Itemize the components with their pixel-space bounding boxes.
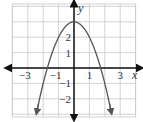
curve-arrow-right xyxy=(109,103,111,112)
x-tick-label: −3 xyxy=(19,69,31,81)
parabola-graph: −3−11321−1−2xy xyxy=(0,0,143,122)
curve-arrow-left xyxy=(37,103,39,112)
y-tick-label: −1 xyxy=(59,77,71,89)
x-tick-label: 1 xyxy=(87,69,93,81)
y-tick-label: 2 xyxy=(66,31,72,43)
y-axis-label: y xyxy=(77,1,84,15)
x-tick-label: 3 xyxy=(117,69,123,81)
y-tick-label: 1 xyxy=(66,47,72,59)
y-tick-label: −2 xyxy=(59,93,71,105)
x-axis-label: x xyxy=(131,68,138,82)
